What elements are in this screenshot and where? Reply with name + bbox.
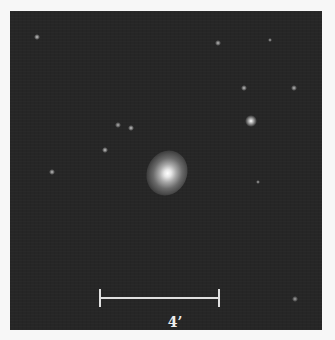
sky-image: 4’ [10, 11, 322, 330]
star [268, 38, 272, 42]
star [291, 85, 297, 91]
star [115, 122, 121, 128]
star [241, 85, 247, 91]
star [102, 147, 108, 153]
star [128, 125, 134, 131]
star [292, 296, 298, 302]
scale-bar [99, 289, 220, 307]
star [215, 40, 221, 46]
star [245, 115, 257, 127]
galaxy [139, 144, 195, 203]
star [34, 34, 40, 40]
scale-bar-label: 4’ [163, 314, 187, 330]
scale-bar-line [99, 297, 220, 299]
star [256, 180, 260, 184]
star [49, 169, 55, 175]
scale-bar-right-tick [218, 289, 220, 307]
scale-bar-left-tick [99, 289, 101, 307]
